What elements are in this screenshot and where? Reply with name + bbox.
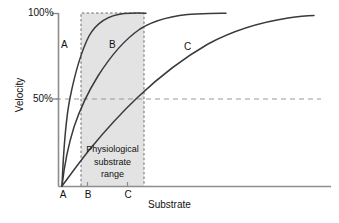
enzyme-kinetics-chart: 100% 50% Velocity A B C Substrate A B C …: [0, 0, 339, 223]
x-axis-tick-label-a: A: [56, 190, 70, 200]
y-axis-label-50: 50%: [33, 94, 53, 104]
physiological-range-annotation: Physiological substrate range: [80, 143, 145, 181]
curve-label-c: C: [184, 42, 191, 52]
x-axis-tick-label-c: C: [121, 190, 135, 200]
x-axis-title: Substrate: [148, 200, 191, 210]
curve-label-a: A: [61, 40, 68, 50]
region-annotation-line-1: Physiological: [80, 143, 145, 156]
curve-label-b: B: [109, 40, 116, 50]
chart-plot-area: [0, 0, 339, 223]
x-axis-tick-label-b: B: [81, 190, 95, 200]
y-axis-title: Velocity: [15, 65, 25, 125]
region-annotation-line-3: range: [80, 168, 145, 181]
region-annotation-line-2: substrate: [80, 156, 145, 169]
y-axis-label-100: 100%: [28, 8, 54, 18]
